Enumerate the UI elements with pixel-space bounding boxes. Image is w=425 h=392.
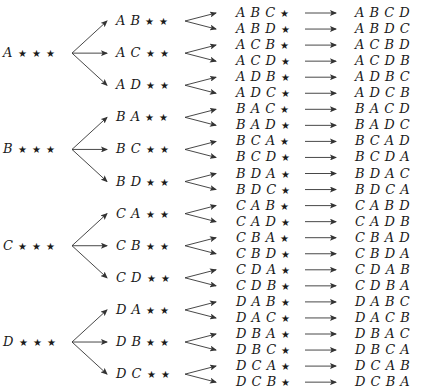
star-icon: ★ [47, 337, 57, 348]
star-icon: ★ [281, 329, 291, 340]
branch-arrow [185, 214, 216, 222]
star-icon: ★ [161, 272, 171, 283]
permutation-result: C B A D [355, 231, 410, 245]
branch-arrow [185, 246, 216, 254]
star-icon: ★ [281, 24, 291, 35]
permutation-result: C A D B [355, 215, 410, 229]
level2-node: C A ★ ★ [116, 206, 169, 221]
level3-node: D B C ★ [236, 343, 291, 358]
star-icon: ★ [160, 144, 170, 155]
star-icon: ★ [280, 136, 290, 147]
branch-arrow [185, 374, 216, 382]
level3-node: D A B ★ [236, 294, 290, 309]
star-icon: ★ [281, 216, 291, 227]
level2-node: A D ★ ★ [116, 78, 170, 93]
permutation-result: A B C D [355, 6, 410, 20]
branch-arrow [185, 206, 216, 214]
branch-arrow [185, 278, 216, 286]
level2-node: C B ★ ★ [116, 238, 169, 253]
permutation-result: B A D C [355, 118, 410, 132]
level3-node: A D B ★ [236, 70, 290, 85]
permutation-result: B A C D [355, 102, 410, 116]
branch-arrow [185, 85, 216, 93]
level3-node: A C D ★ [236, 54, 291, 69]
star-icon: ★ [146, 80, 156, 91]
star-icon: ★ [281, 361, 291, 372]
branch-arrow [185, 310, 216, 318]
star-icon: ★ [159, 112, 169, 123]
level2-node: A B ★ ★ [116, 14, 169, 29]
permutation-result: B C A D [355, 134, 410, 148]
permutation-result: B D A C [355, 167, 410, 181]
permutation-result: A C B D [355, 38, 410, 52]
permutation-result: D A B C [355, 295, 410, 309]
level1-node: C ★ ★ ★ [3, 238, 56, 253]
star-icon: ★ [32, 48, 42, 59]
star-icon: ★ [281, 377, 291, 388]
branch-arrow [185, 342, 216, 350]
star-icon: ★ [18, 48, 28, 59]
star-icon: ★ [32, 144, 42, 155]
star-icon: ★ [46, 240, 56, 251]
level3-node: A C B ★ [236, 38, 290, 53]
star-icon: ★ [146, 240, 156, 251]
star-icon: ★ [146, 48, 156, 59]
branch-arrow [72, 117, 107, 149]
permutation-result: D C B A [355, 375, 410, 389]
level3-node: C A B ★ [236, 198, 290, 213]
level2-node: D A ★ ★ [116, 302, 170, 317]
level3-node: D C A ★ [236, 359, 291, 374]
branch-arrow [185, 53, 216, 61]
branch-arrow [72, 149, 107, 181]
branch-arrow [185, 182, 216, 190]
branch-arrow [185, 77, 216, 85]
permutation-result: C D B A [355, 279, 410, 293]
level1-node: A ★ ★ ★ [3, 46, 55, 61]
star-icon: ★ [281, 152, 291, 163]
level3-node: C A D ★ [236, 214, 291, 229]
permutation-result: A D B C [355, 70, 410, 84]
star-icon: ★ [33, 337, 43, 348]
level3-node: D B A ★ [236, 327, 290, 342]
branch-arrow [185, 174, 216, 182]
star-icon: ★ [160, 80, 170, 91]
star-icon: ★ [160, 208, 170, 219]
star-icon: ★ [281, 264, 291, 275]
level3-node: B D C ★ [236, 182, 291, 197]
branch-arrow [185, 21, 216, 29]
star-icon: ★ [46, 48, 56, 59]
permutation-result: A C D B [355, 54, 410, 68]
level1-node: B ★ ★ ★ [3, 142, 55, 157]
star-icon: ★ [281, 120, 291, 131]
permutation-result: D B C A [355, 343, 410, 357]
star-icon: ★ [160, 176, 170, 187]
permutation-result: D B A C [355, 327, 410, 341]
star-icon: ★ [160, 48, 170, 59]
branch-arrow [72, 214, 107, 246]
permutation-result: A B D C [355, 22, 410, 36]
branch-arrow [185, 270, 216, 278]
level3-node: B C A ★ [236, 134, 290, 149]
star-icon: ★ [280, 200, 290, 211]
star-icon: ★ [280, 232, 290, 243]
level2-node: B D ★ ★ [116, 174, 170, 189]
permutation-result: B C D A [355, 150, 410, 164]
branch-arrow [185, 149, 216, 157]
permutation-result: C B D A [355, 247, 410, 261]
star-icon: ★ [281, 345, 291, 356]
permutation-result: D C A B [355, 359, 410, 373]
star-icon: ★ [160, 337, 170, 348]
level3-node: A D C ★ [236, 86, 291, 101]
star-icon: ★ [146, 176, 156, 187]
permutation-tree-diagram: A B C ★A B C DA B D ★A B D CA C B ★A C B… [0, 0, 425, 392]
star-icon: ★ [18, 240, 28, 251]
level3-node: B C D ★ [236, 150, 291, 165]
star-icon: ★ [281, 184, 291, 195]
branch-arrow [185, 334, 216, 342]
branch-arrow [185, 238, 216, 246]
star-icon: ★ [281, 248, 291, 259]
branch-arrow [185, 109, 216, 117]
permutation-result: D A C B [355, 311, 410, 325]
level3-node: C B D ★ [236, 246, 291, 261]
star-icon: ★ [146, 208, 156, 219]
